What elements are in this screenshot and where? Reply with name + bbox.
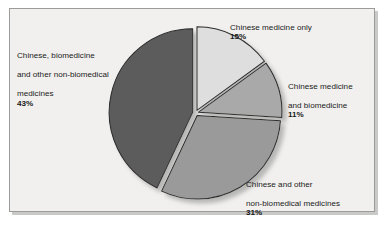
pie-label-chinese-medicine-only: Chinese medicine only 15% — [230, 13, 312, 51]
pie-label-chinese-medicine-and-biomedicine: Chinese medicine and biomedicine 11% — [288, 72, 353, 130]
pie-label-text-line3: medicines — [17, 89, 54, 98]
pie-label-percent: 15% — [230, 32, 312, 42]
pie-label-percent: 43% — [17, 99, 109, 109]
pie-label-percent: 11% — [288, 110, 353, 120]
pie-label-text-line1: Chinese, biomedicine — [17, 51, 95, 60]
pie-label-text-line1: Chinese and other — [246, 180, 313, 189]
pie-label-text-line2: non-biomedical medicines — [246, 199, 340, 208]
pie-label-text: Chinese medicine only — [230, 23, 312, 32]
pie-chart-figure: Chinese medicine only 15% Chinese medici… — [0, 0, 389, 229]
pie-label-text-line2: and other non-biomedical — [17, 70, 109, 79]
pie-label-text-line2: and biomedicine — [288, 101, 347, 110]
pie-label-text-line1: Chinese medicine — [288, 82, 353, 91]
pie-label-chinese-biomedicine-and-other: Chinese, biomedicine and other non-biome… — [17, 41, 109, 118]
pie-label-chinese-and-other-non-biomedical: Chinese and other non-biomedical medicin… — [246, 170, 340, 228]
pie-label-percent: 31% — [246, 208, 340, 218]
